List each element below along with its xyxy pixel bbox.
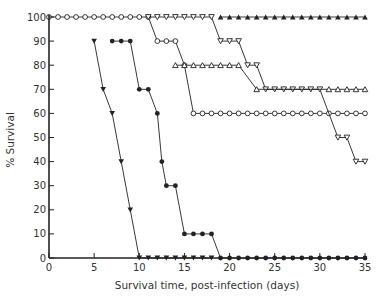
filled-circle-marker [209, 232, 214, 237]
filled-triangle-down-marker [127, 207, 133, 212]
open-circle-marker [354, 111, 359, 116]
x-axis-title: Survival time, post-infection (days) [115, 279, 299, 291]
plot-area [47, 14, 368, 260]
filled-triangle-down-marker [109, 111, 115, 116]
open-circle-marker [110, 15, 115, 20]
series-line [94, 41, 211, 258]
y-tick-label: 50 [33, 132, 46, 143]
open-circle-marker [227, 111, 232, 116]
y-tick-label: 60 [33, 108, 46, 119]
y-axis-title: % Survival [4, 112, 16, 168]
x-tick-label: 10 [133, 262, 146, 273]
survival-chart: 010203040506070809010005101520253035 Sur… [0, 0, 382, 301]
filled-circle-marker [155, 111, 160, 116]
filled-circle-marker [128, 39, 133, 44]
filled-circle-marker [173, 183, 178, 188]
y-tick-label: 90 [33, 36, 46, 47]
y-tick-label: 40 [33, 156, 46, 167]
open-circle-marker [281, 111, 286, 116]
x-tick-label: 15 [178, 262, 191, 273]
open-circle-marker [345, 111, 350, 116]
y-tick-label: 20 [33, 204, 46, 215]
open-circle-marker [128, 15, 133, 20]
open-circle-marker [173, 39, 178, 44]
filled-triangle-down-marker [91, 39, 97, 44]
y-tick-label: 80 [33, 60, 46, 71]
series-line [112, 41, 365, 258]
open-circle-marker [290, 111, 295, 116]
open-circle-marker [65, 15, 70, 20]
x-tick-label: 30 [313, 262, 326, 273]
open-circle-marker [363, 111, 368, 116]
series-filled-triangle-down [91, 39, 214, 261]
x-tick-label: 0 [46, 262, 52, 273]
y-tick-label: 10 [33, 228, 46, 239]
filled-circle-marker [119, 39, 124, 44]
filled-circle-marker [159, 159, 164, 164]
series-open-triangle-up [173, 63, 368, 92]
filled-circle-marker [200, 232, 205, 237]
filled-triangle-down-marker [100, 87, 106, 92]
filled-circle-marker [164, 183, 169, 188]
x-tick-label: 35 [359, 262, 372, 273]
open-circle-marker [236, 111, 241, 116]
series-filled-circle [110, 39, 368, 261]
open-circle-marker [254, 111, 259, 116]
x-tick-label: 5 [91, 262, 97, 273]
open-circle-marker [317, 111, 322, 116]
series-filled-triangle-up [218, 14, 368, 19]
open-circle-marker [245, 111, 250, 116]
open-circle-marker [272, 111, 277, 116]
y-tick-label: 100 [27, 12, 46, 23]
x-tick-label: 25 [268, 262, 281, 273]
open-circle-marker [200, 111, 205, 116]
open-circle-marker [164, 39, 169, 44]
open-circle-marker [209, 111, 214, 116]
open-circle-marker [191, 111, 196, 116]
open-circle-marker [119, 15, 124, 20]
open-circle-marker [101, 15, 106, 20]
filled-circle-marker [182, 232, 187, 237]
open-circle-marker [74, 15, 79, 20]
open-circle-marker [137, 15, 142, 20]
filled-circle-marker [110, 39, 115, 44]
open-circle-marker [263, 111, 268, 116]
y-tick-label: 70 [33, 84, 46, 95]
open-circle-marker [155, 39, 160, 44]
filled-circle-marker [146, 87, 151, 92]
open-circle-marker [218, 111, 223, 116]
y-tick-label: 30 [33, 180, 46, 191]
open-circle-marker [56, 15, 61, 20]
x-tick-label: 20 [223, 262, 236, 273]
filled-circle-marker [137, 87, 142, 92]
open-circle-marker [336, 111, 341, 116]
open-circle-marker [308, 111, 313, 116]
series-line [175, 65, 365, 89]
filled-triangle-down-marker [118, 159, 124, 164]
open-circle-marker [92, 15, 97, 20]
open-circle-marker [83, 15, 88, 20]
filled-circle-marker [191, 232, 196, 237]
open-circle-marker [299, 111, 304, 116]
